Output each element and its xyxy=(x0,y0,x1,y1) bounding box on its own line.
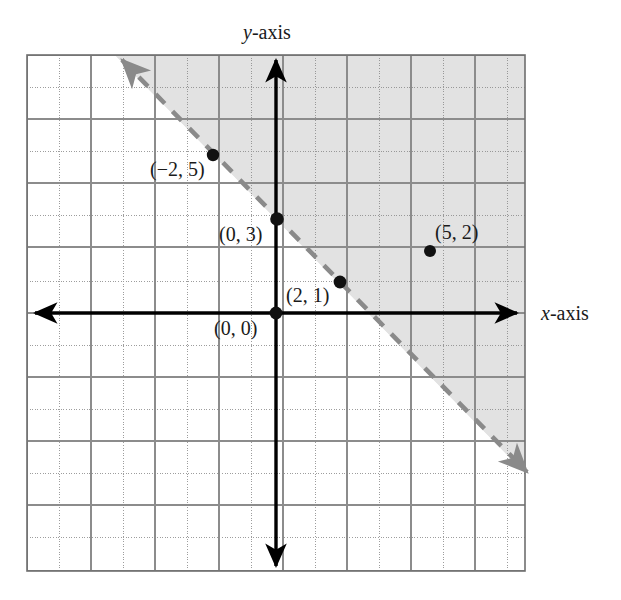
point-label-5-2: (5, 2) xyxy=(435,222,478,242)
data-point xyxy=(424,245,436,257)
graph-figure: y-axis x-axis (−2, 5) (0, 3) (2, 1) (0, … xyxy=(0,0,621,600)
x-axis-label-suffix: -axis xyxy=(550,302,589,324)
point-label-neg2-5: (−2, 5) xyxy=(150,159,205,179)
x-axis-label: x-axis xyxy=(541,303,589,323)
data-point xyxy=(270,212,284,226)
data-point xyxy=(270,307,283,320)
x-axis-label-variable: x xyxy=(541,302,550,324)
point-label-0-0: (0, 0) xyxy=(214,318,257,338)
y-axis-label: y-axis xyxy=(243,22,291,42)
point-label-0-3: (0, 3) xyxy=(219,224,262,244)
data-point xyxy=(334,276,347,289)
data-point xyxy=(207,149,219,161)
point-label-2-1: (2, 1) xyxy=(286,285,329,305)
y-axis-label-suffix: -axis xyxy=(252,21,291,43)
y-axis-label-variable: y xyxy=(243,21,252,43)
